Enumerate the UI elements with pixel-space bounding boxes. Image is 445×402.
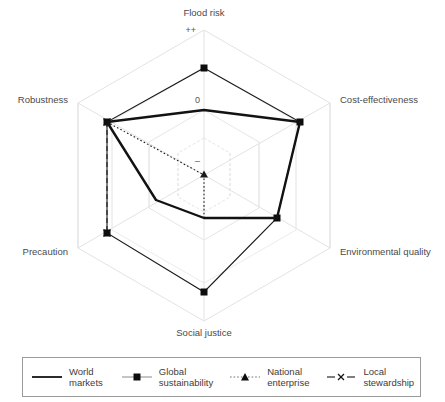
legend-item-local-stewardship[interactable]: Local stewardship: [321, 358, 414, 396]
scale-label-max: ++: [185, 25, 196, 35]
chart-legend: World markets Global sustainability Nati…: [22, 357, 421, 397]
legend-label-national-enterprise: National enterprise: [265, 366, 309, 388]
axis-label-robustness: Robustness: [18, 94, 68, 105]
legend-item-global-sustainability[interactable]: Global sustainability: [117, 358, 213, 396]
marker-social-justice: [201, 289, 208, 296]
axis-label-social-justice: Social justice: [176, 327, 231, 338]
radar-svg: Flood risk Cost-effectiveness Environmen…: [0, 0, 445, 402]
axis-label-environmental-quality: Environmental quality: [340, 246, 431, 257]
spoke-environmental-quality: [204, 175, 330, 248]
spoke-cost-effectiveness: [204, 103, 330, 175]
legend-label-global-sustainability: Global sustainability: [157, 366, 213, 388]
legend-item-world-markets[interactable]: World markets: [27, 358, 103, 396]
series-national-enterprise: [107, 122, 208, 218]
axis-label-flood-risk: Flood risk: [183, 7, 224, 18]
legend-swatch-square-marker-icon: [117, 366, 157, 388]
marker-precaution: [104, 230, 111, 237]
legend-swatch-solid-line-icon: [27, 366, 67, 388]
scale-label-zero: 0: [195, 95, 200, 105]
legend-label-world-markets: World markets: [67, 366, 103, 388]
marker-flood-risk: [201, 65, 208, 72]
axis-label-cost-effectiveness: Cost-effectiveness: [340, 94, 418, 105]
radar-chart-figure: Flood risk Cost-effectiveness Environmen…: [0, 0, 445, 402]
legend-item-national-enterprise[interactable]: National enterprise: [225, 358, 309, 396]
legend-swatch-dotted-triangle-icon: [225, 366, 265, 388]
scale-label-min: –: [195, 156, 200, 166]
legend-label-local-stewardship: Local stewardship: [361, 366, 414, 388]
legend-swatch-dashed-cross-icon: [321, 366, 361, 388]
axis-label-precaution: Precaution: [23, 246, 68, 257]
